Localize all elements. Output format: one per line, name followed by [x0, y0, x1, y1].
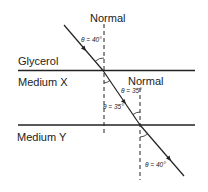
- medium-label-glycerol: Glycerol: [18, 55, 58, 67]
- angle-arc-incident-y: [133, 112, 140, 115]
- angle-arc-incident: [96, 58, 105, 61]
- refraction-diagram: Normal Normal Glycerol Medium X Medium Y…: [0, 0, 208, 192]
- normal-label-1: Normal: [90, 12, 125, 24]
- refracted-ray-medium-y: [140, 125, 184, 176]
- angle-label-incident-y: θ = 35°: [103, 103, 124, 110]
- angle-label-refracted-x: θ = 35°: [121, 87, 142, 94]
- medium-label-medium-x: Medium X: [18, 76, 68, 88]
- angle-arc-refracted-x: [104, 81, 110, 84]
- angle-arc-refracted-y: [140, 134, 148, 137]
- normal-label-2: Normal: [128, 75, 163, 87]
- angle-label-incident: θ = 40°: [81, 36, 102, 43]
- medium-label-medium-y: Medium Y: [17, 131, 67, 143]
- angle-label-refracted-y: θ = 40°: [145, 161, 166, 168]
